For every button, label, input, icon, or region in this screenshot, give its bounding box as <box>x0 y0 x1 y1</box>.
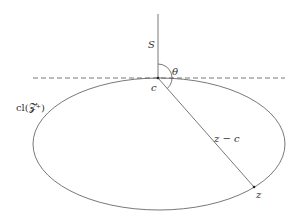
label-z-minus-c: z − c <box>213 133 240 144</box>
label-z: z <box>255 189 262 200</box>
diagram-canvas: S θ c cl(𝓩⁺) z − c z <box>0 0 299 218</box>
ellipse-boundary <box>33 78 285 210</box>
label-c: c <box>151 82 157 93</box>
label-S: S <box>148 39 155 50</box>
point-z <box>253 186 256 189</box>
label-theta: θ <box>172 66 178 77</box>
angle-arc-theta <box>158 64 172 89</box>
point-c <box>157 77 160 80</box>
label-set-closure: cl(𝓩⁺) <box>16 102 45 113</box>
